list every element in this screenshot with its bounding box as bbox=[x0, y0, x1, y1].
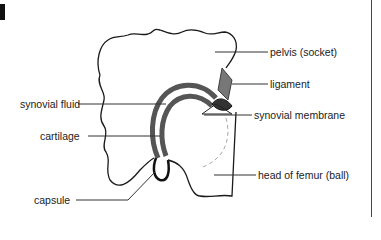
femur-head-dashed bbox=[200, 118, 228, 168]
cartilage-inner-arc bbox=[162, 96, 212, 156]
ligament-shape bbox=[218, 68, 232, 100]
label-cartilage: cartilage bbox=[40, 130, 80, 142]
label-capsule: capsule bbox=[34, 194, 70, 206]
capsule-shape bbox=[154, 158, 169, 180]
label-ligament: ligament bbox=[270, 78, 310, 90]
label-synovial-membrane: synovial membrane bbox=[254, 109, 345, 121]
label-pelvis: pelvis (socket) bbox=[270, 46, 337, 58]
leader-lines bbox=[76, 52, 268, 200]
femur-outline bbox=[168, 112, 236, 197]
label-synovial-fluid: synovial fluid bbox=[20, 98, 80, 110]
label-head-of-femur: head of femur (ball) bbox=[258, 169, 349, 181]
pelvis-left-edge bbox=[99, 75, 154, 185]
